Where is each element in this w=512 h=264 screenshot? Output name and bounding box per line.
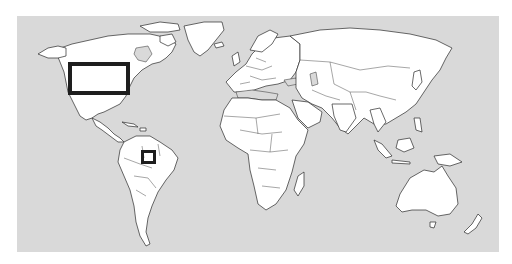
arctic-islands: [140, 22, 180, 32]
hispaniola: [140, 128, 146, 131]
java: [392, 160, 410, 164]
british-isles: [232, 52, 240, 66]
world-map-canvas: [17, 16, 499, 252]
north-america-landmass: [55, 34, 176, 120]
australia: [396, 166, 458, 216]
new-zealand: [464, 214, 482, 234]
africa: [220, 98, 308, 210]
madagascar: [294, 172, 304, 196]
sumatra: [374, 140, 392, 158]
greenland: [184, 22, 224, 56]
world-map: [17, 16, 499, 252]
cuba: [122, 122, 138, 127]
new-guinea: [434, 154, 462, 166]
alaska-landmass: [38, 46, 66, 58]
tasmania: [430, 222, 436, 228]
iceland: [214, 42, 224, 48]
central-america: [92, 118, 124, 142]
philippines: [414, 118, 422, 132]
borneo: [396, 138, 414, 152]
